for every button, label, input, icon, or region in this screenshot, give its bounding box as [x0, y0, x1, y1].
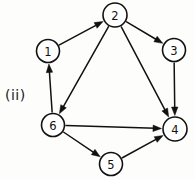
- arrowhead-2-to-4: [162, 108, 169, 117]
- graph-node-6[interactable]: 6: [42, 114, 65, 137]
- node-label-3: 3: [170, 44, 177, 58]
- graph-node-4[interactable]: 4: [163, 117, 187, 141]
- edge-5-to-4: [122, 138, 157, 157]
- nodes-layer: 123456: [37, 3, 188, 176]
- node-label-4: 4: [171, 123, 178, 137]
- node-label-1: 1: [44, 45, 51, 59]
- arrowhead-6-to-1: [46, 64, 52, 73]
- arrowhead-5-to-4: [154, 135, 163, 142]
- arrowhead-1-to-2: [94, 21, 103, 28]
- graph-node-3[interactable]: 3: [163, 39, 186, 62]
- edge-6-to-1: [49, 70, 52, 112]
- edge-1-to-2: [59, 24, 97, 45]
- arrowhead-2-to-3: [154, 36, 163, 43]
- arrowhead-3-to-4: [172, 107, 178, 116]
- graph-node-1[interactable]: 1: [37, 40, 60, 63]
- edge-6-to-4: [66, 125, 155, 128]
- edge-6-to-5: [64, 132, 95, 153]
- node-label-5: 5: [107, 158, 114, 172]
- figure-container: 123456 (ii): [0, 0, 195, 180]
- node-label-2: 2: [111, 9, 118, 23]
- node-label-6: 6: [49, 119, 56, 133]
- edge-3-to-4: [174, 63, 175, 109]
- edges-layer: [46, 21, 178, 157]
- arrowhead-2-to-6: [59, 105, 66, 114]
- graph-node-2[interactable]: 2: [103, 3, 127, 27]
- edge-2-to-3: [127, 22, 158, 40]
- graph-node-5[interactable]: 5: [100, 153, 123, 176]
- arrowhead-6-to-5: [91, 149, 100, 156]
- directed-graph-diagram: 123456: [0, 0, 195, 180]
- figure-caption: (ii): [5, 87, 26, 103]
- arrowhead-6-to-4: [153, 125, 162, 131]
